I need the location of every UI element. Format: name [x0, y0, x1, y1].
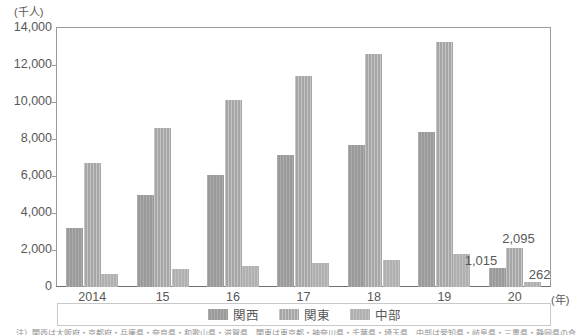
bar-chubu [524, 282, 541, 287]
y-tick-label: 8,000 [4, 131, 52, 145]
kanto-swatch [279, 309, 299, 320]
bar-chubu [172, 269, 189, 288]
x-axis-unit-label: (年) [551, 291, 569, 307]
footnote: 注）関西は大阪府・京都府・兵庫県・奈良県・和歌山県・滋賀県、関東は東京都・神奈川… [16, 329, 576, 335]
legend-label: 中部 [375, 305, 401, 324]
bar-kansai [137, 195, 154, 287]
x-tick-label: 15 [127, 290, 197, 304]
x-tick-label: 2014 [57, 290, 127, 304]
legend: 関西関東中部 [57, 303, 551, 326]
y-tick-label: 10,000 [4, 94, 52, 108]
bar-chubu [383, 260, 400, 287]
bar-chubu [312, 263, 329, 287]
chubu-swatch [350, 309, 370, 320]
bars-layer [57, 28, 550, 287]
y-tick-label: 14,000 [4, 20, 52, 34]
y-tick-label: 2,000 [4, 242, 52, 256]
bar-kansai [489, 268, 506, 287]
y-tick-label: 12,000 [4, 57, 52, 71]
bar-kanto [84, 163, 101, 287]
y-axis-unit-label: (千人) [14, 3, 43, 19]
legend-item[interactable]: 中部 [350, 305, 401, 324]
bar-group [127, 28, 197, 287]
bar-group [198, 28, 268, 287]
bar-chart: (千人) 02,0004,0006,0008,00010,00012,00014… [0, 0, 579, 335]
y-tick-label: 0 [4, 279, 52, 293]
bar-kanto [365, 54, 382, 287]
x-tick-label: 17 [268, 290, 338, 304]
bar-kanto [436, 42, 453, 287]
x-tick-label: 19 [409, 290, 479, 304]
data-label: 262 [529, 267, 551, 282]
data-label: 1,015 [465, 253, 498, 268]
bar-kansai [418, 132, 435, 287]
x-tick-label: 20 [480, 290, 550, 304]
bar-chubu [101, 274, 118, 287]
bar-chubu [242, 266, 259, 287]
y-tick-label: 4,000 [4, 205, 52, 219]
legend-label: 関西 [233, 305, 259, 324]
legend-item[interactable]: 関西 [208, 305, 259, 324]
x-tick-label: 16 [198, 290, 268, 304]
bar-kansai [207, 175, 224, 287]
bar-kanto [506, 248, 523, 287]
bar-kansai [277, 155, 294, 287]
bar-kansai [348, 145, 365, 287]
bar-kanto [295, 76, 312, 287]
bar-kanto [154, 128, 171, 287]
bar-group [409, 28, 479, 287]
y-tick-label: 6,000 [4, 168, 52, 182]
bar-group [480, 28, 550, 287]
bar-group [268, 28, 338, 287]
legend-item[interactable]: 関東 [279, 305, 330, 324]
legend-label: 関東 [304, 305, 330, 324]
data-label: 2,095 [502, 231, 535, 246]
bar-group [339, 28, 409, 287]
kansai-swatch [208, 309, 228, 320]
bar-group [57, 28, 127, 287]
bar-kanto [225, 100, 242, 287]
bar-kansai [66, 228, 83, 287]
x-tick-label: 18 [339, 290, 409, 304]
